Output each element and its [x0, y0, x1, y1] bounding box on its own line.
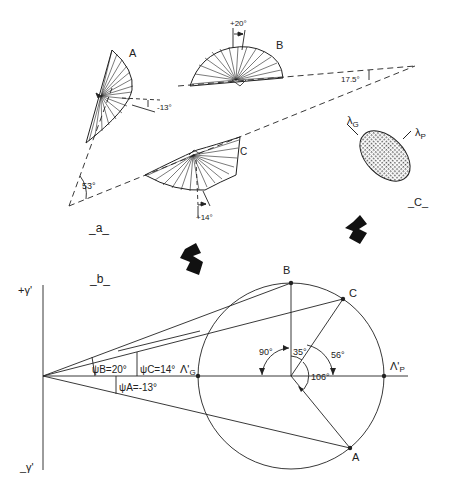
point-a-label: A	[352, 451, 360, 463]
lambda-p-label: λP	[415, 126, 426, 141]
point-c-label: C	[349, 287, 357, 299]
point-a	[348, 446, 352, 450]
ray-a	[43, 376, 350, 448]
crystal-a-label: A	[129, 47, 137, 59]
panel-c-label: _C_	[407, 196, 429, 208]
rotation-arrow-icon	[180, 215, 367, 275]
ray-b	[43, 283, 291, 376]
panel-a-label: _a_	[88, 221, 109, 235]
point-lambda-p	[382, 374, 386, 378]
crystal-a-angle: -13°	[157, 103, 172, 112]
arc-106	[303, 362, 309, 389]
dashed-edge-top	[178, 66, 415, 86]
diagram-canvas: A -13° B +20° C +14° 53° 17.5° _a_ λG λP…	[0, 0, 449, 490]
lambda-p-tick	[403, 131, 411, 139]
arc-56	[307, 345, 333, 375]
crystal-c-label: C	[240, 146, 247, 157]
angle-35-label: 35°	[293, 347, 307, 357]
psi-a-label: ψA=-13°	[119, 382, 157, 393]
crystal-c-fan	[145, 137, 240, 191]
angle-17-5-label: 17.5°	[341, 75, 360, 84]
crystal-b-angle: +20°	[230, 19, 247, 28]
point-b	[289, 281, 293, 285]
lambda-g-prime-label: Λ'G	[180, 363, 196, 377]
indicatrix-ellipse	[350, 121, 419, 190]
angle-53-label: 53°	[82, 181, 96, 191]
point-c	[341, 297, 345, 301]
crystal-a-fan	[86, 50, 133, 143]
angle-90-label: 90°	[259, 347, 273, 357]
gamma-plus-label: +γ'	[18, 284, 32, 296]
lambda-g-label: λG	[347, 114, 359, 129]
radius-a	[291, 376, 350, 448]
ray-c	[43, 299, 343, 376]
point-b-label: B	[283, 264, 290, 276]
gamma-minus-label: _γ'	[19, 461, 34, 473]
psi-c-label: ψC=14°	[140, 364, 175, 375]
panel-c	[347, 121, 420, 190]
point-lambda-g	[196, 374, 200, 378]
lambda-p-prime-label: Λ'P	[390, 360, 405, 374]
crystal-b-fan	[190, 47, 283, 86]
panel-b	[43, 283, 408, 470]
psi-b-label: ψB=20°	[92, 364, 127, 375]
panel-b-label: _b_	[89, 272, 110, 286]
panel-a	[69, 28, 415, 217]
angle-106-label: 106°	[311, 372, 330, 382]
crystal-c-angle: +14°	[196, 213, 213, 222]
angle-56-label: 56°	[331, 350, 345, 360]
crystal-b-label: B	[276, 39, 283, 51]
